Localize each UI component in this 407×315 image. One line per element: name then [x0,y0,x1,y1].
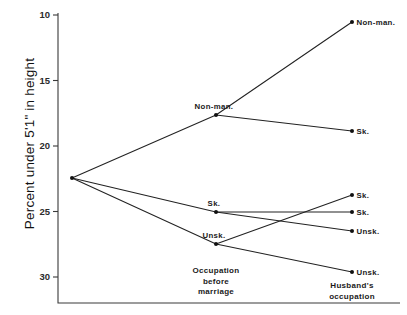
node-point-end-unsk-from-unsk[interactable] [350,270,354,274]
link-root-to-mid-nonman [72,115,216,178]
y-tick-label: 15 [39,75,50,86]
node-label-end-sk-from-nonman: Sk. [357,127,370,136]
node-point-end-sk-from-nonman[interactable] [350,129,354,133]
node-label-end-unsk-from-sk: Unsk. [357,227,380,236]
node-point-mid-sk[interactable] [214,210,218,214]
node-point-end-nonman[interactable] [350,20,354,24]
y-tick-group: 1015202530 [39,9,58,282]
link-mid-nonman-to-end-nonman [216,22,352,115]
link-mid-unsk-to-end-sk-from-unsk [216,195,352,244]
node-point-end-sk-from-sk[interactable] [350,210,354,214]
y-tick-label: 30 [39,271,50,282]
axes-group [58,13,400,303]
y-tick-label: 25 [39,206,50,217]
link-root-to-mid-unsk [72,178,216,244]
node-point-end-unsk-from-sk[interactable] [350,229,354,233]
node-label-end-sk-from-sk: Sk. [357,208,370,217]
node-point-mid-nonman[interactable] [214,113,218,117]
node-label-end-unsk-from-unsk: Unsk. [357,268,380,277]
chart-figure: Percent under 5'1" in height 1015202530 … [0,0,407,315]
node-point-root[interactable] [70,176,74,180]
link-mid-sk-to-end-unsk-from-sk [216,212,352,231]
y-tick-label: 20 [39,140,50,151]
node-label-mid-nonman: Non-man. [195,102,234,111]
node-label-end-sk-from-unsk: Sk. [357,191,370,200]
node-labels-group: Non-man.Sk.Unsk.Non-man.Sk.Sk.Sk.Unsk.Un… [195,18,396,277]
link-mid-nonman-to-end-sk-from-nonman [216,115,352,131]
axis-frame [58,13,400,303]
node-point-mid-unsk[interactable] [214,242,218,246]
node-point-end-sk-from-unsk[interactable] [350,193,354,197]
stage-caption-stage-husband: Husband'soccupation [329,281,375,301]
node-label-end-nonman: Non-man. [357,18,396,27]
stage-caption-stage-before-marriage: Occupationbeforemarriage [192,266,239,296]
link-root-to-mid-sk [72,178,216,212]
y-tick-label: 10 [39,9,50,20]
node-label-mid-unsk: Unsk. [203,231,226,240]
chart-plot-area: 1015202530 Non-man.Sk.Unsk.Non-man.Sk.Sk… [0,0,407,315]
node-label-mid-sk: Sk. [208,199,221,208]
